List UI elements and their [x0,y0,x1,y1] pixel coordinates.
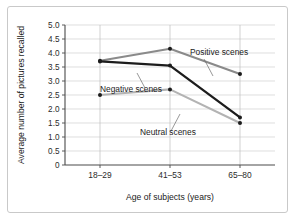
series-annotation-label: Positive scenes [190,47,248,57]
y-tick-label: 1.0 [48,133,60,142]
y-tick-label: 1.5 [48,119,60,128]
x-axis-title: Age of subjects (years) [126,192,214,202]
y-tick-label: 3.0 [48,77,60,86]
y-tick-label: 3.5 [48,63,60,72]
data-point [98,59,102,63]
series-annotation-label: Neutral scenes [140,127,196,137]
line-chart: 00.51.01.52.02.53.03.54.04.55.0 18–2941–… [8,7,289,214]
y-axis-ticks: 00.51.01.52.02.53.03.54.04.55.0 [48,21,65,170]
data-point [168,64,172,68]
chart-stage: 00.51.01.52.02.53.03.54.04.55.0 18–2941–… [8,7,289,214]
y-axis-title: Average number of pictures recalled [16,26,26,164]
x-tick-label: 18–29 [88,170,112,180]
data-point [238,72,242,76]
y-tick-label: 0.5 [48,147,60,156]
y-tick-label: 2.5 [48,91,60,100]
x-axis-ticks: 18–2941–5365–80 [88,165,252,180]
x-tick-label: 41–53 [158,170,182,180]
y-tick-label: 4.5 [48,35,60,44]
y-tick-label: 5.0 [48,21,60,30]
y-tick-label: 4.0 [48,49,60,58]
data-point [238,115,242,119]
figure-frame: 00.51.01.52.02.53.03.54.04.55.0 18–2941–… [7,6,288,213]
x-tick-label: 65–80 [228,170,252,180]
series-annotation-label: Negative scenes [100,84,162,94]
y-tick-label: 0 [55,161,60,170]
y-tick-label: 2.0 [48,105,60,114]
data-point [238,121,242,125]
data-point [168,47,172,51]
data-point [168,87,172,91]
